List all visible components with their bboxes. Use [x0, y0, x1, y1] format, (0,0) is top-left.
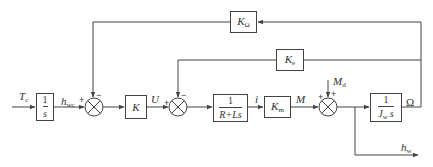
torque-label: M	[296, 94, 305, 105]
summer1-plus: +	[79, 96, 84, 105]
current-label: i	[255, 94, 258, 105]
diagram-wires	[0, 0, 433, 167]
hw-label: hw	[401, 142, 412, 155]
summer-2	[169, 98, 187, 116]
integrator-block: 1 s	[36, 93, 54, 121]
speed-feedback-block: KΩ	[230, 11, 257, 33]
omega-label: Ω	[406, 97, 414, 108]
block-diagram: 1 s K 1 R+Ls Km 1 Jws KΩ Ke Tc hwc U i M…	[0, 0, 433, 167]
gain-k-block: K	[125, 95, 147, 119]
hwc-label: hwc	[61, 96, 75, 109]
torque-constant-block: Km	[264, 96, 291, 118]
back-emf-block: Ke	[276, 49, 304, 71]
summer2-plus: +	[164, 99, 169, 108]
u-label: U	[151, 94, 159, 105]
electrical-block: 1 R+Ls	[213, 94, 248, 122]
summer1-minus: −	[96, 91, 101, 100]
summer2-minus: −	[181, 91, 186, 100]
summer3-plus-left: +	[318, 93, 323, 102]
disturbance-label: Md	[333, 76, 346, 89]
inertia-block: 1 Jws	[370, 93, 402, 122]
input-label: Tc	[19, 91, 28, 104]
summer3-plus-top: +	[331, 90, 336, 99]
summer-1	[85, 98, 103, 116]
